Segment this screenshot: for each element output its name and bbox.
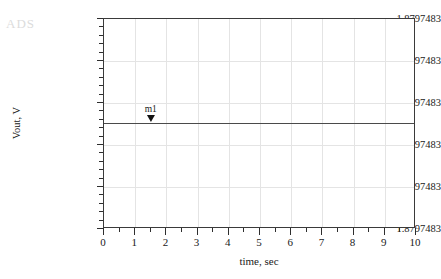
x-tick-major	[228, 228, 229, 235]
x-tick-label: 8	[350, 236, 356, 248]
x-tick-minor	[212, 228, 213, 232]
x-tick-minor	[150, 228, 151, 232]
x-tick-minor	[368, 228, 369, 232]
x-tick-label: 3	[194, 236, 200, 248]
x-tick-label: 0	[100, 236, 106, 248]
x-tick-label: 2	[163, 236, 169, 248]
x-tick-minor	[337, 228, 338, 232]
x-tick-major	[197, 228, 198, 235]
marker-m1-label: m1	[145, 104, 157, 114]
marker-m1-triangle-icon	[147, 115, 155, 122]
x-tick-label: 10	[410, 236, 421, 248]
plot-area: m1	[103, 18, 415, 228]
x-tick-minor	[399, 228, 400, 232]
ads-watermark: ADS	[6, 16, 35, 32]
x-tick-major	[259, 228, 260, 235]
marker-m1[interactable]: m1	[145, 104, 157, 122]
x-tick-major	[384, 228, 385, 235]
x-tick-major	[353, 228, 354, 235]
y-axis-title: Vout, V	[11, 107, 22, 139]
horizontal-gridline	[104, 187, 414, 188]
x-tick-major	[321, 228, 322, 235]
x-tick-major	[415, 228, 416, 235]
x-tick-major	[103, 228, 104, 235]
horizontal-gridline	[104, 145, 414, 146]
x-tick-label: 9	[381, 236, 387, 248]
x-tick-minor	[243, 228, 244, 232]
x-tick-minor	[181, 228, 182, 232]
x-tick-major	[290, 228, 291, 235]
x-tick-label: 4	[225, 236, 231, 248]
x-tick-label: 5	[256, 236, 262, 248]
x-tick-label: 7	[319, 236, 325, 248]
x-axis-title: time, sec	[239, 255, 278, 267]
x-tick-label: 6	[287, 236, 293, 248]
x-tick-minor	[275, 228, 276, 232]
x-tick-major	[165, 228, 166, 235]
x-tick-minor	[119, 228, 120, 232]
x-tick-major	[134, 228, 135, 235]
horizontal-gridline	[104, 61, 414, 62]
x-tick-minor	[306, 228, 307, 232]
x-tick-label: 1	[131, 236, 137, 248]
trace-vout	[104, 123, 414, 125]
